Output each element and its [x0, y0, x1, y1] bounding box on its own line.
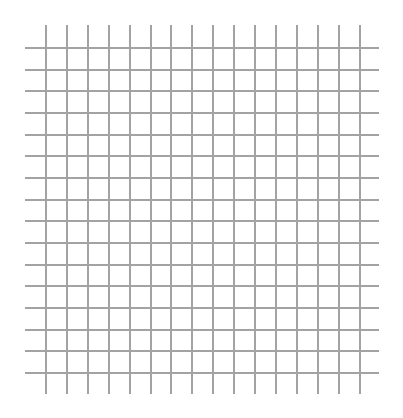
grid-line-vertical — [170, 25, 172, 394]
grid-line-horizontal — [25, 155, 379, 157]
grid-line-vertical — [338, 25, 340, 394]
grid-line-vertical — [212, 25, 214, 394]
grid-line-horizontal — [25, 329, 379, 331]
grid-line-horizontal — [25, 220, 379, 222]
grid-line-vertical — [191, 25, 193, 394]
grid-line-horizontal — [25, 372, 379, 374]
grid-line-horizontal — [25, 199, 379, 201]
grid-line-vertical — [108, 25, 110, 394]
grid-line-vertical — [254, 25, 256, 394]
grid-line-vertical — [317, 25, 319, 394]
grid-line-vertical — [150, 25, 152, 394]
grid-line-horizontal — [25, 134, 379, 136]
grid-diagram — [0, 0, 403, 418]
grid-line-horizontal — [25, 264, 379, 266]
grid-line-horizontal — [25, 307, 379, 309]
grid-line-vertical — [45, 25, 47, 394]
grid-line-horizontal — [25, 242, 379, 244]
grid-line-horizontal — [25, 177, 379, 179]
grid-line-horizontal — [25, 285, 379, 287]
grid-line-vertical — [233, 25, 235, 394]
grid-line-vertical — [275, 25, 277, 394]
grid-line-vertical — [359, 25, 361, 394]
grid-line-horizontal — [25, 112, 379, 114]
grid-line-vertical — [129, 25, 131, 394]
grid-line-horizontal — [25, 69, 379, 71]
grid-line-vertical — [87, 25, 89, 394]
grid-line-vertical — [66, 25, 68, 394]
grid-line-horizontal — [25, 47, 379, 49]
grid-line-vertical — [296, 25, 298, 394]
grid-line-horizontal — [25, 90, 379, 92]
grid-line-horizontal — [25, 350, 379, 352]
